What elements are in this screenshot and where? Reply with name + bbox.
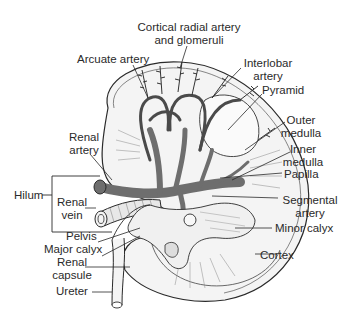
label-cortical-radial-artery: Cortical radial artery and glomeruli	[124, 21, 254, 46]
label-ureter: Ureter	[56, 285, 88, 298]
label-minor-calyx: Minor calyx	[275, 222, 333, 235]
label-papilla: Papilla	[284, 168, 319, 181]
label-arcuate-artery: Arcuate artery	[77, 53, 149, 66]
label-inner-medulla: Inner medulla	[278, 143, 328, 168]
label-renal-capsule: Renal capsule	[52, 256, 92, 281]
label-hilum: Hilum	[14, 189, 43, 202]
label-outer-medulla: Outer medulla	[276, 114, 326, 139]
label-interlobar-artery: Interlobar artery	[238, 57, 298, 82]
label-renal-vein: Renal vein	[56, 196, 88, 221]
label-renal-artery: Renal artery	[66, 131, 102, 156]
label-cortex: Cortex	[260, 249, 294, 262]
label-major-calyx: Major calyx	[44, 243, 102, 256]
label-pelvis: Pelvis	[66, 230, 97, 243]
label-segmental-artery: Segmental artery	[278, 194, 342, 219]
ureter-shape	[112, 238, 125, 308]
label-pyramid: Pyramid	[262, 84, 304, 97]
kidney-diagram: Cortical radial artery and glomeruli Arc…	[0, 0, 350, 323]
